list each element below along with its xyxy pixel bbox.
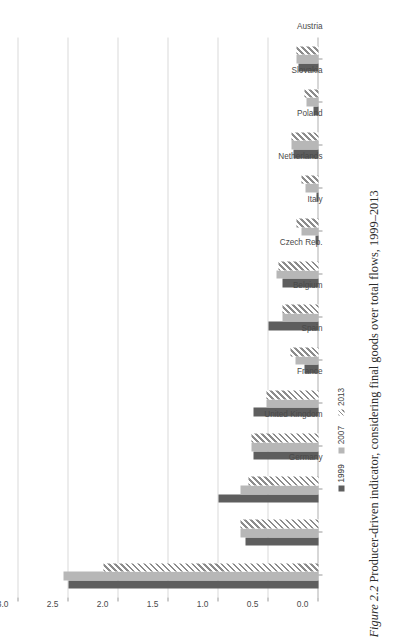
- figure-caption: Figure 2.2 Producer-driven indicator, co…: [366, 0, 381, 637]
- bar-2007: [266, 399, 318, 408]
- category-tick: [318, 144, 322, 145]
- y-tick-label: 3.0: [0, 598, 8, 608]
- category-label: Austria: [202, 22, 322, 31]
- bar-1999: [68, 580, 318, 589]
- y-tick-mark: [267, 597, 268, 601]
- category-tick: [318, 316, 322, 317]
- bar-group: [18, 519, 318, 545]
- y-tick-label: 2.0: [78, 598, 108, 608]
- bar-group: [18, 563, 318, 589]
- legend-item: 1999: [336, 464, 345, 491]
- legend-item: 2013: [336, 387, 345, 414]
- plot-area: 0.00.51.01.52.02.53.0 GermanyUnited King…: [18, 37, 318, 597]
- y-tick-mark: [317, 597, 318, 601]
- bar-2013: [290, 347, 318, 356]
- figure-page: 0.00.51.01.52.02.53.0 GermanyUnited King…: [0, 0, 394, 637]
- legend-item: 2007: [336, 426, 345, 453]
- bar-2013: [296, 46, 318, 55]
- bar-2007: [240, 528, 318, 537]
- legend-label: 2013: [336, 387, 345, 405]
- category-tick: [318, 58, 322, 59]
- legend-label: 1999: [336, 464, 345, 482]
- y-tick-mark: [117, 597, 118, 601]
- category-label: France: [202, 366, 322, 375]
- bar-2013: [103, 563, 318, 572]
- category-tick: [318, 359, 322, 360]
- legend-swatch-icon: [338, 485, 344, 491]
- category-label: Spain: [202, 323, 322, 332]
- y-tick-label: 0.5: [228, 598, 258, 608]
- category-label: Italy: [202, 194, 322, 203]
- category-tick: [318, 187, 322, 188]
- category-tick: [318, 445, 322, 446]
- y-tick-label: 2.5: [28, 598, 58, 608]
- bar-2007: [296, 54, 318, 63]
- bar-2013: [240, 519, 318, 528]
- category-label: Germany: [202, 452, 322, 461]
- category-label: Belgium: [202, 280, 322, 289]
- bar-2013: [278, 261, 318, 270]
- legend-label: 2007: [336, 426, 345, 444]
- bar-2007: [282, 313, 318, 322]
- legend-swatch-icon: [338, 409, 344, 415]
- bar-2013: [251, 433, 318, 442]
- rotated-figure-wrapper: 0.00.51.01.52.02.53.0 GermanyUnited King…: [0, 0, 394, 637]
- bar-2013: [291, 132, 318, 141]
- y-tick-mark: [217, 597, 218, 601]
- category-tick: [318, 273, 322, 274]
- bar-2013: [301, 175, 318, 184]
- category-label: Slovakia: [202, 65, 322, 74]
- chart-legend: 199920072013: [336, 387, 345, 491]
- y-tick-mark: [17, 597, 18, 601]
- category-tick: [318, 531, 322, 532]
- legend-swatch-icon: [338, 447, 344, 453]
- category-label: Netherlands: [202, 151, 322, 160]
- bar-2007: [251, 442, 318, 451]
- bar-2013: [282, 304, 318, 313]
- bar-group: [18, 476, 318, 502]
- category-label: Czech Rep.: [202, 237, 322, 246]
- bar-2007: [305, 183, 318, 192]
- bar-chart: 0.00.51.01.52.02.53.0: [18, 37, 318, 597]
- bar-2007: [306, 97, 318, 106]
- category-tick: [318, 574, 322, 575]
- category-label: United Kingdom: [202, 409, 322, 418]
- y-tick-mark: [167, 597, 168, 601]
- bar-2007: [63, 571, 318, 580]
- bar-2013: [296, 218, 318, 227]
- category-tick: [318, 101, 322, 102]
- category-tick: [318, 402, 322, 403]
- category-tick: [318, 488, 322, 489]
- bar-2013: [266, 390, 318, 399]
- bar-2007: [295, 356, 318, 365]
- y-tick-label: 0.0: [278, 598, 308, 608]
- category-label: Poland: [202, 108, 322, 117]
- bar-1999: [245, 537, 318, 546]
- figure-body: 0.00.51.01.52.02.53.0 GermanyUnited King…: [0, 0, 394, 637]
- y-tick-label: 1.5: [128, 598, 158, 608]
- bar-1999: [218, 494, 318, 503]
- y-tick-label: 1.0: [178, 598, 208, 608]
- figure-number: Figure 2.2: [366, 585, 380, 637]
- bar-2007: [276, 270, 318, 279]
- figure-caption-text: Producer-driven indicator, considering f…: [366, 190, 380, 582]
- bar-2007: [291, 140, 318, 149]
- category-tick: [318, 230, 322, 231]
- bar-2007: [240, 485, 318, 494]
- y-tick-mark: [67, 597, 68, 601]
- bar-2007: [301, 227, 318, 236]
- bar-2013: [304, 89, 318, 98]
- bar-2013: [248, 476, 318, 485]
